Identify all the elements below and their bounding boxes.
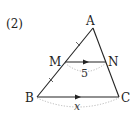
length-label-mn: 5 <box>81 67 88 80</box>
vertex-label-n: N <box>108 55 119 69</box>
triangle-midpoint-diagram: (2) 5 x A M N B C <box>0 0 137 114</box>
parallel-arrow-icon <box>83 60 89 65</box>
length-label-bc: x <box>74 100 81 113</box>
problem-number: (2) <box>6 17 23 31</box>
vertex-label-m: M <box>49 55 61 69</box>
vertex-label-a: A <box>85 14 95 28</box>
vertex-label-b: B <box>25 91 34 105</box>
vertex-label-c: C <box>121 91 130 105</box>
parallel-arrow-icon <box>75 95 81 100</box>
